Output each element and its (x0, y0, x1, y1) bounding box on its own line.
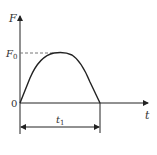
origin-label: 0 (11, 98, 17, 109)
y-axis-label: F (8, 12, 17, 25)
duration-label: t1 (56, 114, 65, 127)
force-curve (20, 52, 100, 103)
peak-label: F0 (5, 48, 17, 61)
force-time-diagram: F t 0 F0 t1 (0, 0, 157, 155)
x-axis-label: t (145, 109, 150, 122)
